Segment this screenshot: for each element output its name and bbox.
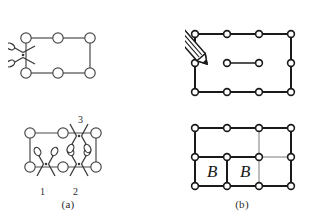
graph-node [224,31,231,38]
scissors-pivot [78,135,81,138]
light-edge-group [259,128,291,186]
block-label-b2: B [240,162,251,181]
graph-node [224,89,231,96]
graph-node [91,162,101,172]
graph-node [58,162,68,172]
graph-node [288,89,295,96]
graph-node [288,31,295,38]
graph-node [25,128,35,138]
graph-node [256,60,263,67]
graph-node [224,60,231,67]
panel-b-bottom-diagram: B B [185,118,310,198]
graph-node [91,128,101,138]
scissors-handle [8,42,16,51]
scissors-icon [8,42,35,68]
graph-node [53,68,63,78]
graph-node [224,154,231,161]
panel-a-bottom-diagram: 1 2 3 [8,115,128,197]
graph-node [25,162,35,172]
graph-node [256,125,263,132]
graph-node [288,183,295,190]
graph-node [85,68,95,78]
scissors-pivot [78,163,81,166]
scissors-handle [33,146,42,157]
figure-container: 1 2 3 (a) [0,0,310,221]
graph-node [192,154,199,161]
pencil-icon [185,21,211,67]
graph-node [192,125,199,132]
scissors-label-3: 3 [78,115,83,125]
graph-node [21,68,31,78]
graph-node [21,33,31,43]
graph-node [256,31,263,38]
graph-node [256,154,263,161]
block-label-b1: B [207,162,218,181]
graph-node [288,154,295,161]
graph-node [256,183,263,190]
graph-node [53,33,63,43]
caption-panel-b: (b) [222,198,262,210]
node-group [21,33,95,78]
graph-node [224,183,231,190]
scissors-icon-1 [33,146,59,176]
panel-a-top-diagram [8,28,118,98]
scissors-handle [50,146,59,157]
graph-node [192,31,199,38]
graph-node [256,89,263,96]
graph-node [192,89,199,96]
panel-b-top-diagram [185,8,310,108]
scissors-handle [8,59,16,68]
graph-node [288,60,295,67]
scissors-label-2: 2 [73,186,78,197]
scissors-label-1: 1 [40,186,45,197]
graph-node [58,128,68,138]
scissors-pivot [22,54,25,57]
graph-node [85,33,95,43]
graph-node [192,183,199,190]
caption-panel-a: (a) [48,198,88,210]
graph-node [288,125,295,132]
scissors-pivot [45,163,48,166]
scissors-icon-3 [66,124,92,154]
graph-node [224,125,231,132]
